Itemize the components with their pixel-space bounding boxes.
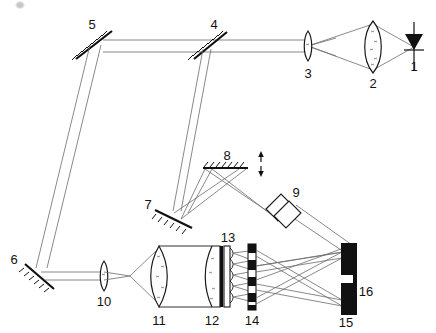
focusing-lens xyxy=(304,31,312,61)
label-2: 2 xyxy=(369,76,376,91)
array-to-mask-rays xyxy=(233,251,249,301)
detector-15-lower xyxy=(341,283,353,315)
label-4: 4 xyxy=(210,17,217,32)
label-8: 8 xyxy=(223,148,230,163)
left-diagonal-rays xyxy=(36,45,101,268)
optical-diagram: 1 2 3 4 5 6 7 8 9 10 11 12 13 14 15 16 xyxy=(0,0,436,333)
lens-12 xyxy=(205,246,223,307)
optics-canvas: 1 2 3 4 5 6 7 8 9 10 11 12 13 14 15 16 xyxy=(0,0,436,333)
fold-mirror-6 xyxy=(19,264,54,292)
mask-to-detector-rays xyxy=(256,250,342,306)
substrate-16 xyxy=(353,243,357,315)
label-9: 9 xyxy=(292,185,299,200)
fold-mirror-7 xyxy=(152,210,192,234)
label-12: 12 xyxy=(205,313,219,328)
microlens-array-13 xyxy=(224,246,233,307)
scan-artifact xyxy=(14,1,26,10)
mirror4-to-mirror7-rays xyxy=(173,49,211,211)
collimating-lens xyxy=(365,21,382,73)
label-13: 13 xyxy=(221,230,235,245)
detector-15-upper xyxy=(341,243,353,275)
upper-branch-to-detector-rays xyxy=(256,205,352,280)
fold-mirror-5 xyxy=(72,31,112,60)
translation-arrow xyxy=(258,151,264,177)
top-beam-rays xyxy=(103,40,213,52)
label-15: 15 xyxy=(339,315,353,330)
detector-assembly xyxy=(341,243,357,315)
fold-mirror-4 xyxy=(188,31,227,60)
mask-14 xyxy=(248,244,256,310)
label-11: 11 xyxy=(152,313,166,328)
label-3: 3 xyxy=(304,66,311,81)
label-6: 6 xyxy=(10,252,17,267)
lens10-to-lens11-rays xyxy=(104,249,158,303)
source-branch-rays xyxy=(213,24,414,70)
label-1: 1 xyxy=(410,59,417,74)
label-7: 7 xyxy=(144,197,151,212)
label-14: 14 xyxy=(245,313,259,328)
label-16: 16 xyxy=(359,284,373,299)
label-5: 5 xyxy=(88,17,95,32)
label-10: 10 xyxy=(97,294,111,309)
mirror7-to-mirror8-rays xyxy=(174,169,277,219)
bottom-beam-rays xyxy=(41,272,104,280)
lens-10 xyxy=(100,261,108,291)
